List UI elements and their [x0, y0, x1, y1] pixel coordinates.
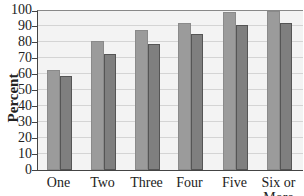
y-tick-label: 50 [0, 83, 32, 97]
y-tick-label: 80 [0, 35, 32, 49]
y-tick-mark [32, 106, 38, 107]
bar-five-series-1 [223, 12, 236, 170]
bar-five-series-2 [236, 25, 249, 170]
bar-one-series-1 [47, 70, 60, 170]
bar-four-series-1 [178, 23, 191, 170]
y-tick-label: 30 [0, 115, 32, 129]
y-tick-label: 40 [0, 99, 32, 113]
gridline [38, 121, 303, 122]
x-tick-label: Six orMore [254, 175, 304, 196]
y-tick-mark [32, 138, 38, 139]
gridline [38, 89, 303, 90]
y-tick-mark [32, 42, 38, 43]
gridline [38, 105, 303, 106]
y-tick-label: 60 [0, 67, 32, 81]
x-tick-label: Five [210, 175, 260, 190]
y-tick-mark [32, 170, 38, 171]
x-tick-label-line: Two [78, 175, 128, 190]
x-tick-label-line: Four [165, 175, 215, 190]
bar-three-series-2 [148, 44, 161, 170]
bar-six-or-more-series-2 [280, 23, 293, 170]
gridline [38, 57, 303, 58]
gridline [38, 25, 303, 26]
y-tick-mark [32, 74, 38, 75]
x-tick-label-line: Six or [254, 175, 304, 190]
y-tick-mark [32, 122, 38, 123]
bar-four-series-2 [191, 34, 204, 170]
x-tick-label: Two [78, 175, 128, 190]
gridline [38, 41, 303, 42]
gridline [38, 73, 303, 74]
bar-six-or-more-series-1 [267, 11, 280, 171]
x-tick-label-line: More [254, 190, 304, 196]
y-tick-mark [32, 58, 38, 59]
x-tick-label: One [34, 175, 84, 190]
x-tick-label-line: One [34, 175, 84, 190]
y-tick-label: 20 [0, 131, 32, 145]
gridline [38, 153, 303, 154]
y-tick-label: 10 [0, 147, 32, 161]
bar-two-series-2 [104, 54, 117, 170]
bar-two-series-1 [91, 41, 104, 170]
gridline [38, 137, 303, 138]
x-tick-label: Four [165, 175, 215, 190]
bar-one-series-2 [60, 76, 73, 170]
y-tick-label: 70 [0, 51, 32, 65]
y-tick-mark [32, 11, 38, 12]
x-tick-label-line: Five [210, 175, 260, 190]
y-tick-mark [32, 154, 38, 155]
bar-three-series-1 [135, 30, 148, 170]
y-tick-label: 90 [0, 19, 32, 33]
y-tick-mark [32, 26, 38, 27]
plot-area [37, 10, 303, 171]
y-tick-label: 0 [0, 163, 32, 177]
y-tick-label: 100 [0, 3, 32, 17]
y-tick-mark [32, 90, 38, 91]
